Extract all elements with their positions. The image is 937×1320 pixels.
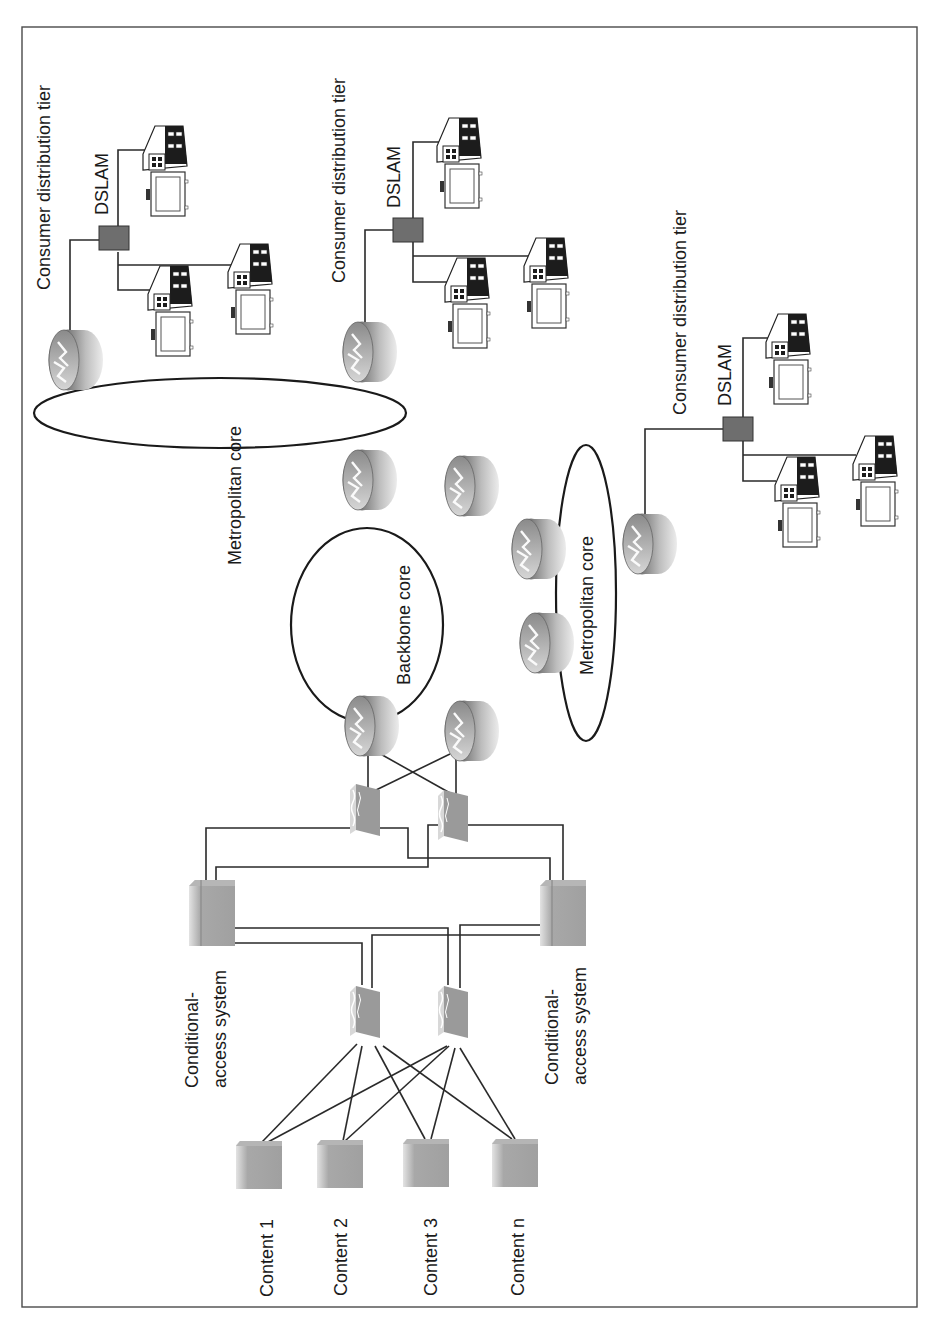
backbone-core-label: Backbone core [394,565,414,685]
network-diagram: Consumer distribution tier Consumer dist… [0,0,937,1320]
tier-3-label: Consumer distribution tier [670,210,690,415]
cas-firewall-wires [235,925,540,988]
router-icon [343,322,397,382]
house-tv-icon [853,436,898,526]
router-icon [520,613,574,673]
router-icon [445,701,499,761]
content-server-icon [403,1139,449,1187]
router-icon [343,450,397,510]
house-tv-icon [775,457,820,547]
firewall-cas-wires [206,825,563,882]
content-server-icon [317,1140,363,1188]
dslam-icon [723,417,753,441]
cas-2-label-line1: Conditional- [542,989,562,1085]
firewall-icon [350,784,380,836]
metropolitan-core-2-label: Metropolitan core [577,536,597,675]
backbone-core-ring [291,528,443,722]
house-tv-icon [445,258,490,348]
firewall-icon [438,986,468,1038]
tier-1-label: Consumer distribution tier [34,85,54,290]
content-server-icon [236,1141,282,1189]
content-1-label: Content 1 [257,1219,277,1297]
router-icon [49,330,103,390]
cas-1-label-line1: Conditional- [182,992,202,1088]
content-3-label: Content 3 [421,1218,441,1296]
firewall-content-wires [262,1044,515,1142]
house-tv-icon [143,126,188,216]
metropolitan-core-1-label: Metropolitan core [225,426,245,565]
backbone-firewall-wires [368,752,456,794]
router-icon [512,519,566,579]
tier-2-label: Consumer distribution tier [329,78,349,283]
figure-frame [22,27,917,1307]
dslam-1-label: DSLAM [92,153,112,215]
router-icon [345,696,399,756]
house-tv-icon [148,266,193,356]
content-servers [236,1139,538,1189]
firewall-icon [438,790,468,842]
content-server-icon [492,1139,538,1187]
firewall-icon [350,986,380,1038]
cas-server-icon [189,880,235,946]
content-n-label: Content n [508,1218,528,1296]
conditional-access-servers [189,880,586,946]
cas-2-label-line2: access system [570,967,590,1085]
router-icon [623,514,677,574]
houses [143,118,898,547]
dslam-icon [393,218,423,242]
house-tv-icon [228,244,273,334]
diagram-canvas: Consumer distribution tier Consumer dist… [0,0,937,1320]
router-icon [445,456,499,516]
dslam-icon [99,226,129,250]
house-tv-icon [766,314,811,404]
cas-server-icon [540,880,586,946]
dslam-2-label: DSLAM [384,146,404,208]
content-2-label: Content 2 [331,1218,351,1296]
house-tv-icon [524,238,569,328]
dslam-3-label: DSLAM [715,344,735,406]
house-tv-icon [437,118,482,208]
cas-1-label-line2: access system [210,970,230,1088]
firewalls [350,784,468,1038]
